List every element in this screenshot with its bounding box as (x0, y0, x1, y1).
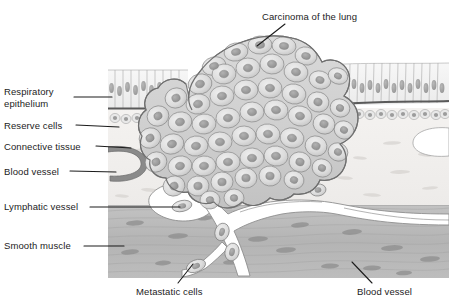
label-metastatic-cells: Metastatic cells (136, 286, 203, 298)
label-connective-tissue: Connective tissue (4, 141, 81, 153)
label-reserve-cells: Reserve cells (4, 120, 62, 132)
label-smooth-muscle: Smooth muscle (4, 240, 71, 252)
label-blood-vessel-left: Blood vessel (4, 166, 59, 178)
histology-figure: Respiratory epithelium Reserve cells Con… (0, 0, 449, 304)
label-carcinoma: Carcinoma of the lung (262, 11, 357, 23)
label-respiratory-epithelium: Respiratory epithelium (4, 86, 54, 109)
label-lymphatic-vessel: Lymphatic vessel (4, 201, 78, 213)
label-blood-vessel-bottom: Blood vessel (357, 286, 412, 298)
